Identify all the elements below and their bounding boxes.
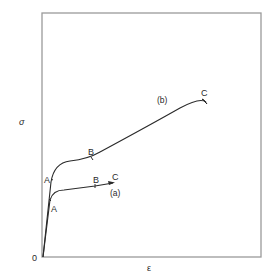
curve-a-point-A-label: A bbox=[51, 204, 57, 214]
curve-b-point-A-label: A bbox=[44, 175, 50, 185]
curve-a-name-label: (a) bbox=[110, 188, 121, 198]
curve-b bbox=[43, 100, 206, 257]
curve-a bbox=[43, 183, 113, 257]
curve-b-point-B-label: B bbox=[88, 147, 94, 157]
origin-label: 0 bbox=[32, 253, 37, 263]
curve-a-point-C-label: C bbox=[112, 172, 119, 182]
plot-frame bbox=[42, 13, 261, 257]
y-axis-label: σ bbox=[19, 117, 25, 127]
curve-a-point-B-label: B bbox=[93, 175, 99, 185]
x-axis-label: ε bbox=[147, 263, 151, 273]
stress-strain-diagram: σ ε 0 (b) B C A (a) B C A bbox=[0, 0, 275, 279]
curve-b-point-C-label: C bbox=[201, 88, 208, 98]
curve-b-name-label: (b) bbox=[157, 95, 168, 105]
tick-b-B bbox=[91, 157, 93, 160]
